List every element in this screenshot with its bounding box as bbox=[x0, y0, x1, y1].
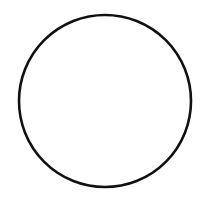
circle-figure: Black outlined circle on white backgroun… bbox=[0, 0, 205, 202]
canvas-background bbox=[0, 0, 205, 202]
canvas-root: Black outlined circle on white backgroun… bbox=[0, 0, 205, 202]
